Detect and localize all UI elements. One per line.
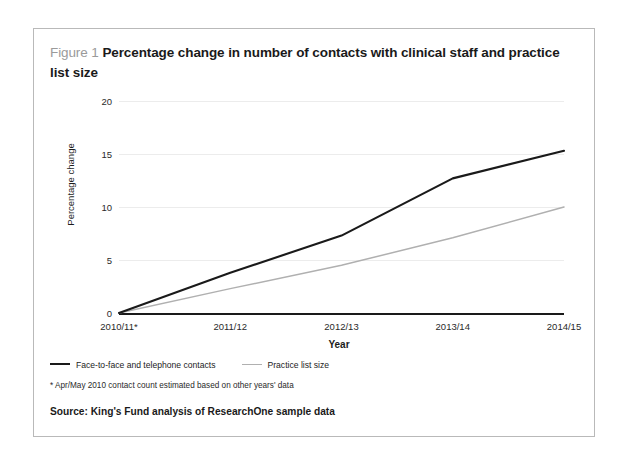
legend-swatch: [50, 363, 70, 365]
legend-swatch: [242, 364, 262, 365]
x-tick-label: 2012/13: [324, 321, 358, 332]
y-tick-label: 20: [101, 96, 112, 107]
x-tick-label: 2013/14: [436, 321, 470, 332]
plot-region: 05101520 2010/11*2011/122012/132013/1420…: [119, 101, 564, 313]
y-tick-label: 5: [107, 255, 112, 266]
x-tick-label: 2011/12: [213, 321, 247, 332]
figure-footnote: * Apr/May 2010 contact count estimated b…: [50, 381, 550, 390]
y-tick-label: 0: [107, 308, 112, 319]
figure-container: Figure 1 Percentage change in number of …: [33, 28, 595, 437]
x-axis-line: [119, 313, 564, 315]
series-line: [119, 151, 564, 313]
x-axis-title: Year: [114, 339, 564, 350]
x-tick-label: 2014/15: [547, 321, 581, 332]
chart-area: Percentage change Year 05101520 2010/11*…: [34, 29, 596, 438]
x-tick-label: 2010/11*: [100, 321, 137, 332]
legend-item: Face-to-face and telephone contacts: [50, 359, 216, 370]
series-lines-group: [119, 101, 564, 313]
legend-item: Practice list size: [242, 359, 330, 370]
y-axis-title: Percentage change: [65, 105, 76, 265]
y-tick-label: 10: [101, 202, 112, 213]
legend-label: Face-to-face and telephone contacts: [76, 360, 216, 370]
legend-label: Practice list size: [268, 360, 330, 370]
figure-source: Source: King's Fund analysis of Research…: [50, 406, 570, 417]
series-line: [119, 207, 564, 313]
y-tick-label: 15: [101, 149, 112, 160]
chart-legend: Face-to-face and telephone contactsPract…: [50, 359, 550, 370]
